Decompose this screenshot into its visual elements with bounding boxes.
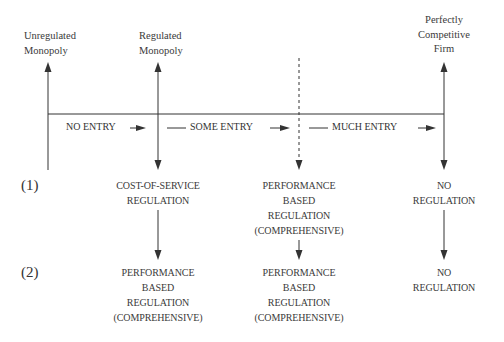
arrow-down-icon: [155, 160, 162, 170]
row1-cost-of-service-regulation: COST-OF-SERVICE REGULATION: [98, 178, 218, 208]
arrow-down-icon: [441, 160, 448, 170]
label-much-entry: MUCH ENTRY: [332, 121, 397, 132]
row-label-1: (1): [21, 177, 39, 194]
label-unregulated-monopoly: Unregulated Monopoly: [24, 29, 76, 58]
arrow-down-icon: [296, 160, 303, 170]
label-regulated-monopoly: Regulated Monopoly: [139, 29, 183, 58]
row2-performance-based-regulation: PERFORMANCE BASED REGULATION (COMPREHENS…: [98, 265, 218, 325]
arrow-right-icon: [136, 125, 146, 131]
label-some-entry: SOME ENTRY: [190, 121, 253, 132]
arrow-up-icon: [155, 62, 162, 72]
arrow-down-icon: [441, 250, 448, 260]
row1-no-regulation: NO REGULATION: [394, 178, 494, 208]
market-regulation-diagram: Unregulated Monopoly Regulated Monopoly …: [0, 0, 504, 342]
label-no-entry: NO ENTRY: [66, 121, 116, 132]
arrow-up-icon: [441, 62, 448, 72]
label-perfectly-competitive-firm: Perfectly Competitive Firm: [404, 13, 484, 57]
arrow-up-icon: [45, 62, 52, 72]
row2-no-regulation: NO REGULATION: [394, 265, 494, 295]
arrow-right-icon: [426, 125, 436, 131]
row2-performance-based-regulation-mid: PERFORMANCE BASED REGULATION (COMPREHENS…: [239, 265, 359, 325]
row1-performance-based-regulation: PERFORMANCE BASED REGULATION (COMPREHENS…: [239, 178, 359, 238]
arrow-right-icon: [280, 125, 290, 131]
arrow-down-icon: [155, 250, 162, 260]
arrow-down-icon: [296, 250, 303, 260]
row-label-2: (2): [21, 264, 39, 281]
